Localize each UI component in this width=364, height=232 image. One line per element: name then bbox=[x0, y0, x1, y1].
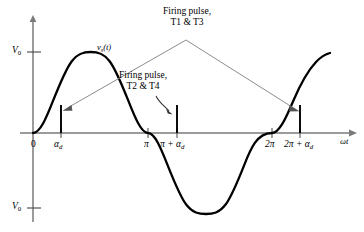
x-axis-2pi-symbol: 2π bbox=[265, 139, 275, 149]
x-axis-2pi-plus-alpha-d-symbol: 2π + α bbox=[284, 139, 310, 149]
firing-pulse-t2-t4-leader bbox=[156, 96, 173, 115]
y-axis-arrowhead bbox=[30, 15, 37, 22]
x-axis-label-alpha-d: αd bbox=[54, 139, 62, 151]
waveform-figure: V0 V0 0 αd π π + αd 2π 2π + αd ωt vs(t) … bbox=[0, 0, 364, 232]
x-axis-label-2pi: 2π bbox=[265, 139, 275, 150]
y-axis-v0-negative-subscript: 0 bbox=[18, 205, 21, 212]
x-axis-label-pi-plus-alpha-d: π + αd bbox=[160, 139, 184, 151]
x-axis-2pi-plus-alpha-d-subscript: d bbox=[310, 143, 313, 150]
leader-arrowhead-t2-t4 bbox=[166, 109, 173, 115]
x-axis-label-origin: 0 bbox=[31, 139, 36, 150]
waveform-svg bbox=[0, 0, 364, 232]
leader-curve-t2-t4 bbox=[156, 96, 169, 111]
x-axis-pi-plus-alpha-d-subscript: d bbox=[181, 143, 184, 150]
x-axis-variable-label: ωt bbox=[340, 137, 348, 147]
x-axis-arrowhead bbox=[349, 130, 357, 137]
firing-pulse-t1-t3-line1: Firing pulse, bbox=[147, 6, 227, 17]
firing-pulse-t1-t3-line2: T1 & T3 bbox=[147, 17, 227, 28]
source-voltage-curve-label: vs(t) bbox=[97, 43, 111, 54]
axis-group bbox=[20, 15, 357, 222]
firing-pulse-t1-t3-label: Firing pulse, T1 & T3 bbox=[147, 6, 227, 27]
x-axis-pi-symbol: π bbox=[144, 139, 149, 149]
x-axis-label-2pi-plus-alpha-d: 2π + αd bbox=[284, 139, 313, 151]
x-axis-label-pi: π bbox=[144, 139, 149, 150]
leader-arrowhead-left-t1-t3 bbox=[63, 105, 73, 111]
x-axis-alpha-d-subscript: d bbox=[59, 143, 62, 150]
y-axis-label-v0-negative: V0 bbox=[12, 201, 21, 212]
x-axis-pi-plus-alpha-d-symbol: π + α bbox=[160, 139, 181, 149]
leader-line-right-t1-t3 bbox=[186, 40, 292, 107]
y-axis-label-v0-positive: V0 bbox=[12, 45, 21, 56]
leader-arrowhead-right-t1-t3 bbox=[289, 105, 299, 111]
firing-pulse-t2-t4-line1: Firing pulse, bbox=[103, 70, 183, 81]
curve-label-argument: (t) bbox=[103, 42, 111, 52]
y-axis-v0-positive-subscript: 0 bbox=[18, 49, 21, 56]
firing-pulse-t2-t4-label: Firing pulse, T2 & T4 bbox=[103, 70, 183, 91]
firing-pulse-marks bbox=[61, 105, 300, 133]
firing-pulse-t2-t4-line2: T2 & T4 bbox=[103, 81, 183, 92]
